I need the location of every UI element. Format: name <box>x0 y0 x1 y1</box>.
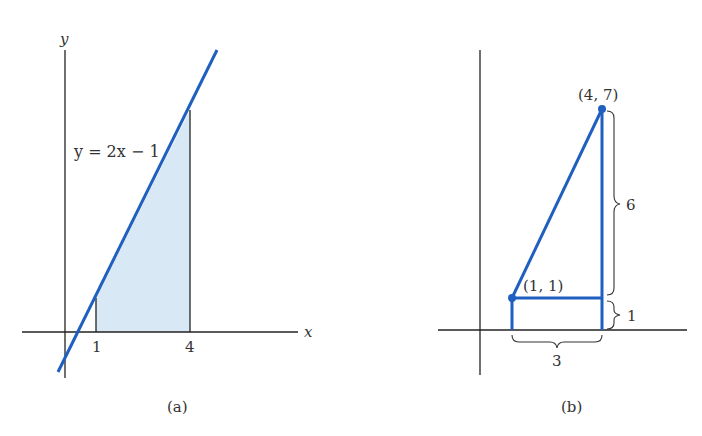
brace-6 <box>607 111 620 295</box>
point-label-1-1: (1, 1) <box>523 277 563 295</box>
brace-label-6: 6 <box>626 196 636 214</box>
brace-1 <box>607 301 620 329</box>
brace-label-3: 3 <box>552 352 562 370</box>
point-4-7 <box>598 105 606 113</box>
tick-label-1: 1 <box>92 338 102 356</box>
brace-3 <box>512 335 602 348</box>
panel-a: y x y = 2x − 1 1 4 (a) <box>22 30 313 416</box>
x-axis-label: x <box>304 323 313 341</box>
point-label-4-7: (4, 7) <box>578 86 618 104</box>
tick-label-4: 4 <box>185 338 195 356</box>
brace-label-1: 1 <box>627 307 637 325</box>
figure-canvas: y x y = 2x − 1 1 4 (a) (4, 7) <box>0 0 702 436</box>
y-axis-label: y <box>59 30 69 48</box>
caption-b: (b) <box>561 398 582 416</box>
panel-b: (4, 7) (1, 1) 6 1 3 (b) <box>438 50 687 416</box>
caption-a: (a) <box>167 398 188 416</box>
equation-label: y = 2x − 1 <box>73 142 160 161</box>
point-1-1 <box>508 294 516 302</box>
hypotenuse <box>512 109 602 298</box>
